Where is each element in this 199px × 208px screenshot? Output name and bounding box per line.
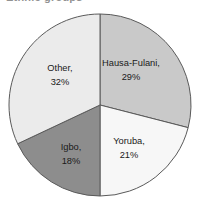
- slice-label-other-name: Other,: [47, 63, 72, 73]
- pie-chart-figure: Ethnic groups Hausa-Fulani, 29% Yoruba, …: [0, 0, 199, 208]
- slice-label-hausa-fulani-name: Hausa-Fulani,: [102, 58, 160, 68]
- slice-label-other-value: 32%: [51, 77, 70, 87]
- pie-chart-svg: Hausa-Fulani, 29% Yoruba, 21% Igbo, 18% …: [0, 0, 199, 208]
- slice-label-yoruba-name: Yoruba,: [113, 136, 145, 146]
- slice-label-igbo-value: 18%: [62, 156, 81, 166]
- slice-label-igbo-name: Igbo,: [61, 142, 82, 152]
- slice-label-yoruba-value: 21%: [120, 150, 139, 160]
- slice-label-hausa-fulani-value: 29%: [122, 72, 141, 82]
